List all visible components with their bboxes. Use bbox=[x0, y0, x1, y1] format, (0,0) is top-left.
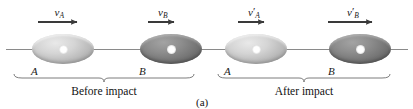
vector-arrow-layer bbox=[0, 0, 413, 109]
bracket-after bbox=[218, 74, 390, 82]
collision-figure: A B A B vA vB v′A v′B Before impact Afte… bbox=[0, 0, 413, 109]
bracket-before bbox=[14, 74, 194, 82]
